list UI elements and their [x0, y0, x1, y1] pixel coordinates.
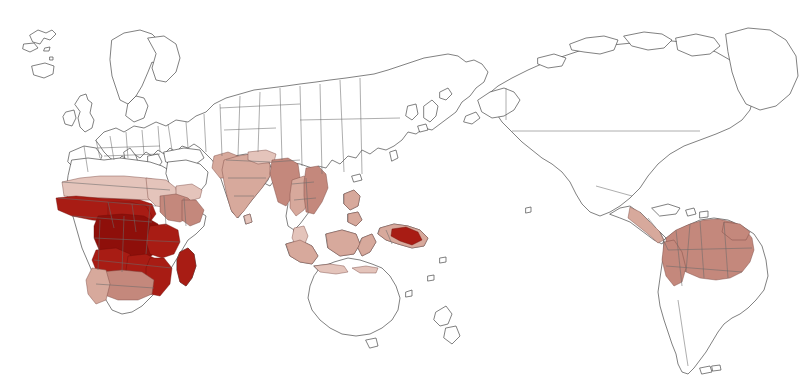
region-sulawesi [358, 234, 376, 256]
region-philippines-mindanao [348, 212, 362, 226]
region-namibia [86, 268, 110, 304]
region-sumatra [286, 240, 318, 264]
region-sri-lanka [244, 214, 252, 224]
region-group-asia [212, 150, 428, 274]
region-borneo [326, 230, 360, 256]
world-map-svg [0, 0, 812, 381]
region-philippines-luzon [344, 190, 360, 210]
region-madagascar [177, 248, 196, 286]
world-map-figure: No transmission Very low Low Moderate Hi… [0, 0, 812, 381]
